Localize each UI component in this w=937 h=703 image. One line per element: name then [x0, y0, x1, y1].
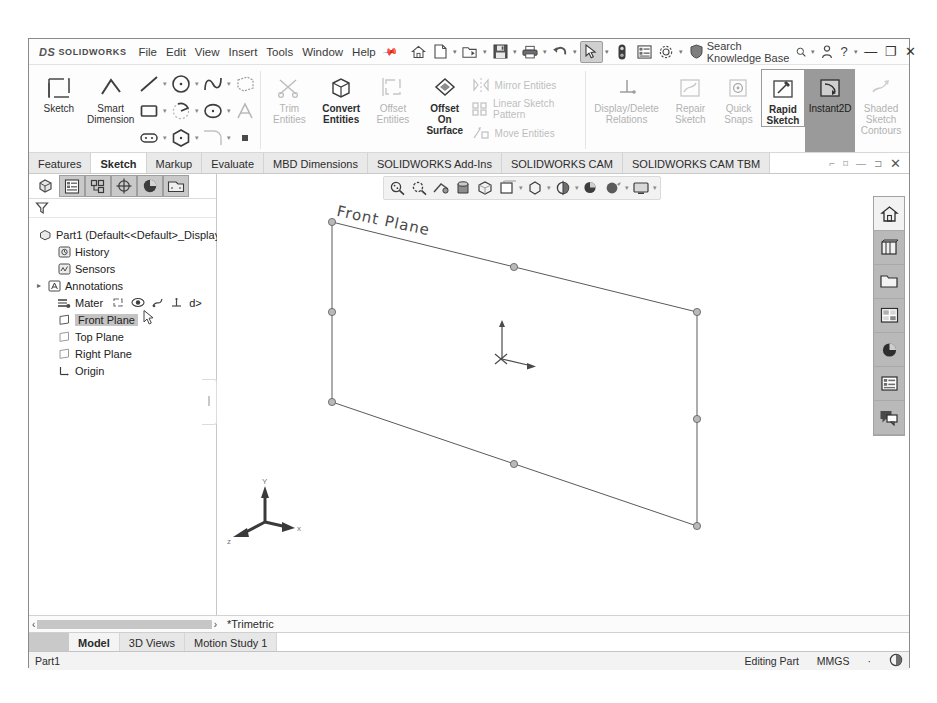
tab-scroll-pad[interactable] — [29, 633, 69, 651]
overlay-icon[interactable] — [889, 653, 903, 669]
line-icon[interactable] — [137, 72, 161, 96]
open-folder-icon[interactable] — [460, 42, 481, 62]
feature-manager-tree-tab[interactable] — [33, 175, 59, 197]
menu-window[interactable]: Window — [302, 46, 343, 58]
tree-twisty[interactable]: ▸ — [34, 281, 43, 290]
menu-edit[interactable]: Edit — [166, 46, 186, 58]
chevron-down-icon[interactable]: ▾ — [542, 48, 549, 56]
menu-help[interactable]: Help — [352, 46, 376, 58]
tree-node-origin[interactable]: Origin — [33, 362, 216, 379]
text-icon[interactable] — [233, 99, 257, 123]
3d-sketch-icon[interactable] — [233, 72, 257, 96]
slot-icon[interactable] — [137, 126, 161, 150]
scroll-left-button[interactable]: ‹ — [32, 619, 35, 630]
trim-entities-button[interactable]: Trim Entities — [263, 69, 315, 125]
panel-collapse-bar[interactable] — [208, 396, 210, 406]
configuration-manager-tab[interactable] — [85, 175, 111, 197]
view-palette-icon[interactable] — [874, 299, 904, 333]
sketch-context-icon[interactable] — [112, 297, 125, 309]
tab-motion-study-1[interactable]: Motion Study 1 — [185, 633, 277, 651]
tab-solidworks-cam[interactable]: SOLIDWORKS CAM — [502, 153, 623, 173]
print-icon[interactable] — [520, 42, 541, 62]
chevron-down-icon[interactable]: ▾ — [163, 134, 167, 142]
chevron-down-icon[interactable]: ▾ — [195, 134, 199, 142]
tree-node-right-plane[interactable]: Right Plane — [33, 345, 216, 362]
dimxpert-manager-tab[interactable] — [111, 175, 137, 197]
chevron-down-icon[interactable]: ▾ — [227, 134, 231, 142]
tab-evaluate[interactable]: Evaluate — [202, 153, 264, 173]
chevron-down-icon[interactable]: ▾ — [678, 48, 685, 56]
linear-sketch-pattern-button[interactable]: Linear Sketch Pattern — [471, 98, 582, 120]
restore-button[interactable]: ❐ — [883, 44, 899, 59]
tab-3d-views[interactable]: 3D Views — [120, 633, 185, 651]
status-units-caret[interactable]: · — [868, 655, 872, 667]
search-input[interactable]: Search Knowledge Base — [707, 40, 793, 64]
design-library-icon[interactable] — [874, 231, 904, 265]
tab-solidworks-add-ins[interactable]: SOLIDWORKS Add-Ins — [368, 153, 502, 173]
chevron-down-icon[interactable]: ▾ — [195, 80, 199, 88]
help-button[interactable]: ? — [838, 44, 849, 59]
home-tab-icon[interactable] — [874, 197, 904, 231]
doc-minimize[interactable]: — — [856, 158, 866, 169]
display-manager-tab[interactable] — [137, 175, 163, 197]
shaded-sketch-contours-button[interactable]: Shaded Sketch Contours — [855, 69, 907, 136]
tab-model[interactable]: Model — [69, 633, 120, 651]
tree-node-material[interactable]: Mater d> — [33, 294, 216, 311]
home-icon[interactable] — [408, 42, 429, 62]
status-units[interactable]: MMGS — [817, 655, 850, 667]
graphics-viewport[interactable]: ▾ ▾ ▾ ▾ ▾ — [217, 174, 909, 615]
pin-icon[interactable]: 📌 — [382, 44, 398, 60]
sketch-tool-button[interactable]: Sketch — [33, 69, 85, 114]
repair-sketch-button[interactable]: Repair Sketch — [665, 69, 717, 125]
chevron-down-icon[interactable]: ▾ — [810, 48, 815, 56]
chevron-down-icon[interactable]: ▾ — [519, 184, 523, 192]
chevron-down-icon[interactable]: ▾ — [575, 184, 579, 192]
mirror-entities-button[interactable]: Mirror Entities — [471, 74, 582, 96]
gear-icon[interactable] — [656, 42, 677, 62]
rapid-sketch-button[interactable]: Rapid Sketch — [761, 69, 806, 127]
fillet-icon[interactable] — [201, 126, 225, 150]
file-explorer-icon[interactable] — [874, 265, 904, 299]
chevron-down-icon[interactable]: ▾ — [625, 184, 629, 192]
tab-features[interactable]: Features — [29, 153, 91, 173]
select-arrow-icon[interactable] — [580, 41, 603, 63]
appearances-scenes-icon[interactable] — [874, 333, 904, 367]
undo-icon[interactable] — [550, 42, 571, 62]
quick-snaps-button[interactable]: Quick Snaps — [716, 69, 760, 125]
new-document-icon[interactable] — [430, 42, 451, 62]
property-manager-tab[interactable] — [59, 175, 85, 197]
user-icon[interactable] — [819, 42, 834, 62]
tab-sketch[interactable]: Sketch — [91, 153, 146, 173]
offset-entities-button[interactable]: Offset Entities — [367, 69, 419, 125]
solidworks-forum-icon[interactable] — [874, 401, 904, 435]
feature-tree-filter[interactable] — [29, 199, 216, 218]
view-eye-icon[interactable] — [131, 297, 145, 308]
tree-node-top-plane[interactable]: Top Plane — [33, 328, 216, 345]
chevron-down-icon[interactable]: ▾ — [227, 80, 231, 88]
doc-restore-2[interactable]: ⌑ — [843, 158, 848, 169]
chevron-down-icon[interactable]: ▾ — [604, 48, 611, 56]
section-view-icon[interactable] — [151, 297, 164, 309]
point-icon[interactable] — [233, 126, 257, 150]
normal-to-icon[interactable] — [170, 297, 183, 309]
chevron-down-icon[interactable]: ▾ — [227, 107, 231, 115]
custom-properties-icon[interactable] — [874, 367, 904, 401]
spline-icon[interactable] — [201, 72, 225, 96]
rectangle-icon[interactable] — [137, 99, 161, 123]
chevron-down-icon[interactable]: ▾ — [163, 107, 167, 115]
chevron-down-icon[interactable]: ▾ — [452, 48, 459, 56]
scroll-thumb[interactable] — [37, 620, 211, 629]
menu-insert[interactable]: Insert — [229, 46, 258, 58]
chevron-down-icon[interactable]: ▾ — [512, 48, 519, 56]
circle-icon[interactable] — [169, 72, 193, 96]
polygon-icon[interactable] — [169, 126, 193, 150]
chevron-down-icon[interactable]: ▾ — [653, 184, 657, 192]
arc-icon[interactable] — [169, 99, 193, 123]
tree-node-annotations[interactable]: ▸ Annotations — [33, 277, 216, 294]
tree-node-front-plane[interactable]: Front Plane — [33, 311, 216, 328]
search-knowledge-base[interactable]: Search Knowledge Base — [707, 40, 806, 64]
tree-node-history[interactable]: History — [33, 243, 216, 260]
doc-restore-1[interactable]: ⌐ — [829, 158, 835, 169]
chevron-down-icon[interactable]: ▾ — [195, 107, 199, 115]
instant2d-button[interactable]: Instant2D — [805, 69, 855, 153]
